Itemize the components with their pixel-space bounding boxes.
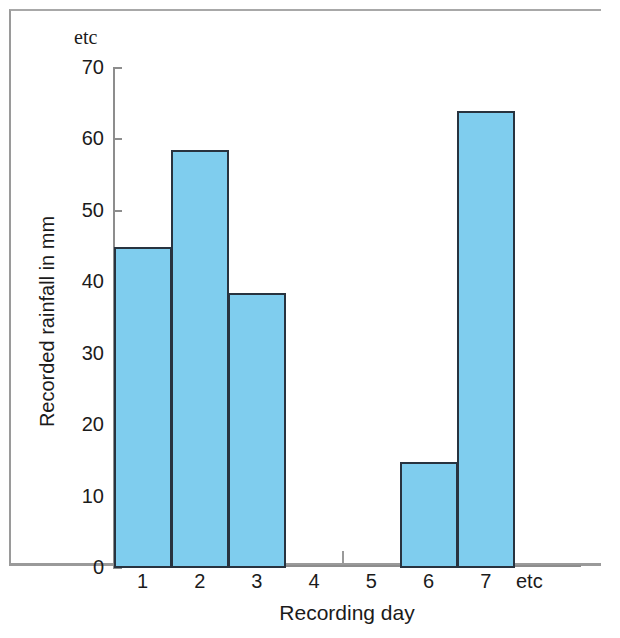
y-tick-label-20: 20 <box>58 413 104 436</box>
plot-area: etc 0 10 20 30 40 50 60 70 1 2 3 4 5 6 7 <box>0 0 620 600</box>
y-axis-title: Recorded rainfall in mm <box>36 107 59 537</box>
y-tick-label-0: 0 <box>58 556 104 579</box>
y-tick-label-40: 40 <box>58 270 104 293</box>
x-tick-between-4-and-5 <box>342 551 344 565</box>
y-axis-etc-label: etc <box>74 26 97 49</box>
x-tick-label-7: 7 <box>457 570 514 593</box>
x-tick-label-1: 1 <box>114 570 171 593</box>
x-tick-label-3: 3 <box>228 570 285 593</box>
bar-day-2 <box>171 150 229 568</box>
y-tick-50 <box>113 210 122 212</box>
bar-day-1 <box>114 247 172 568</box>
bar-day-7 <box>457 111 515 568</box>
rainfall-bar-chart-figure: etc 0 10 20 30 40 50 60 70 1 2 3 4 5 6 7 <box>0 0 620 638</box>
bar-day-6 <box>400 462 458 568</box>
y-tick-label-10: 10 <box>58 485 104 508</box>
bar-day-3 <box>228 293 286 568</box>
y-tick-60 <box>113 138 122 140</box>
x-axis-title: Recording day <box>113 601 581 625</box>
x-axis-etc-label: etc <box>516 570 543 593</box>
x-tick-label-4: 4 <box>286 570 343 593</box>
y-tick-label-50: 50 <box>58 199 104 222</box>
x-tick-label-5: 5 <box>343 570 400 593</box>
y-tick-label-60: 60 <box>58 127 104 150</box>
x-tick-label-6: 6 <box>400 570 457 593</box>
y-tick-label-30: 30 <box>58 342 104 365</box>
y-tick-70 <box>113 67 122 69</box>
y-tick-label-70: 70 <box>58 56 104 79</box>
x-tick-label-2: 2 <box>171 570 228 593</box>
